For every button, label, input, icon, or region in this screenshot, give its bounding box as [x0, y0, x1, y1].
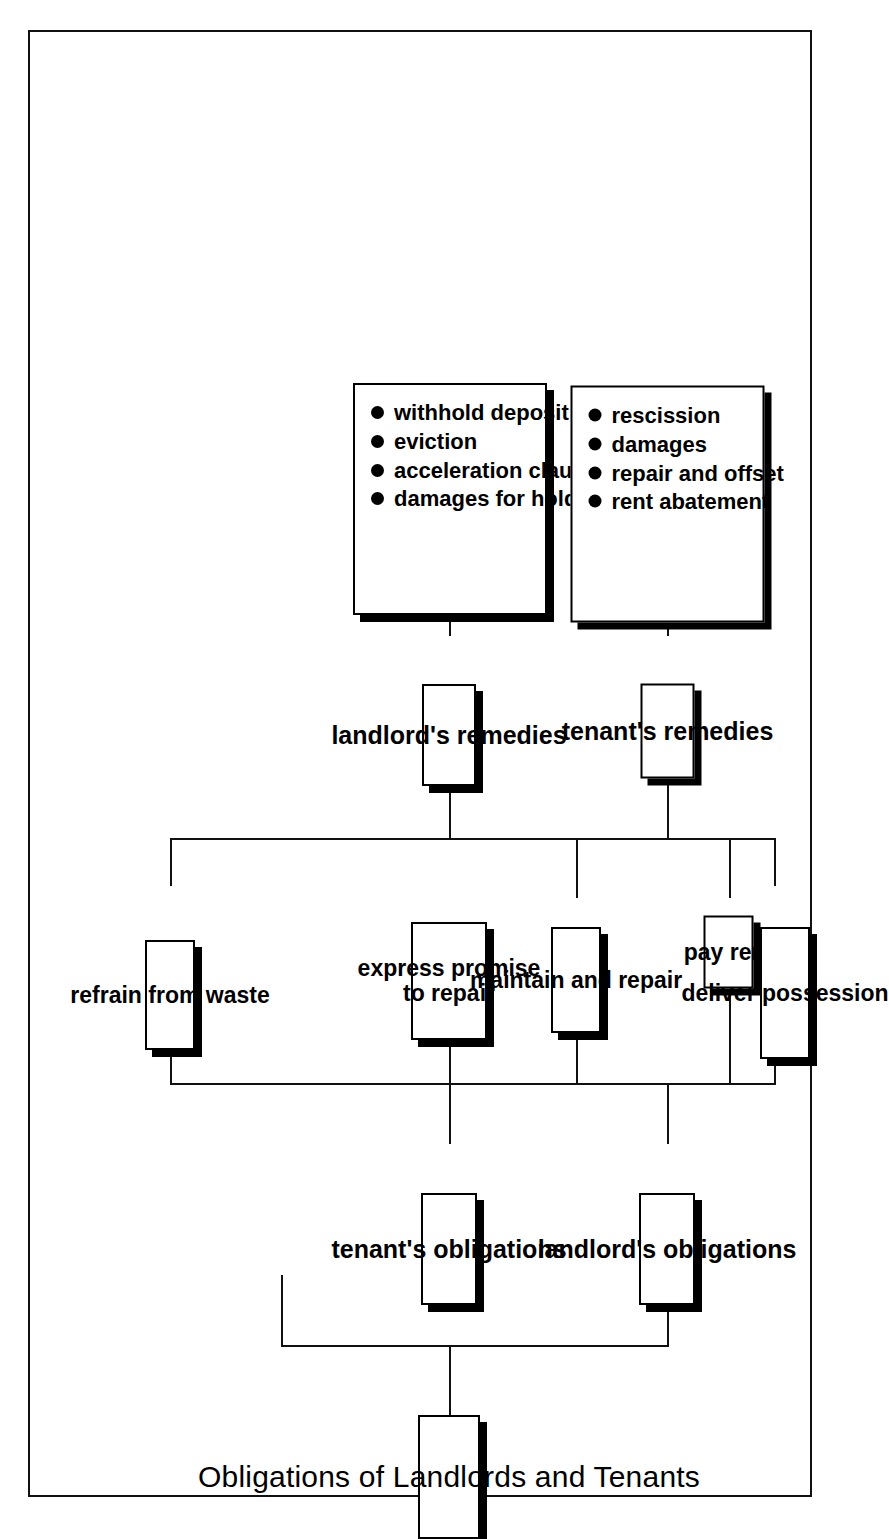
list-item: eviction [371, 430, 527, 454]
node-deliver-possession-label: deliver possession [681, 981, 888, 1006]
node-root-title[interactable]: Obligations of Landlords and Tenants [418, 1415, 480, 1539]
list-item: damages [589, 432, 745, 456]
node-pay-rent[interactable]: pay rent [704, 916, 754, 989]
bullet-dot-icon [589, 437, 602, 450]
node-refrain-from-waste[interactable]: refrain from waste [145, 940, 195, 1050]
node-tenant-obligations-label: tenant's obligations [331, 1236, 566, 1263]
tree-diagram: Obligations of Landlords and Tenants ten… [60, 66, 840, 1526]
connector-root-spine [281, 1345, 669, 1347]
bullet-dot-icon [371, 406, 384, 419]
node-landlord-obligations-label: landlord's obligations [538, 1236, 797, 1263]
list-item-label: damages [612, 432, 707, 456]
connector-tenant-payrent-out [729, 838, 731, 898]
node-tenants-remedies[interactable]: tenant's remedies [641, 684, 695, 779]
list-item: rescission [589, 404, 745, 428]
list-item: acceleration clause [371, 459, 527, 483]
node-tenants-remedies-label: tenant's remedies [562, 718, 774, 745]
connector-landlord-possession-out [774, 838, 776, 886]
list-item-label: rent abatement [612, 490, 770, 514]
connector-tenant-obligations-stem [449, 1084, 451, 1144]
list-item-label: rescission [612, 404, 721, 428]
node-deliver-possession[interactable]: deliver possession [760, 927, 810, 1059]
node-root-title-label: Obligations of Landlords and Tenants [198, 1461, 700, 1493]
node-maintain-and-repair[interactable]: maintain and repair [551, 927, 601, 1033]
node-maintain-and-repair-label: maintain and repair [470, 968, 682, 993]
bullet-dot-icon [371, 464, 384, 477]
connector-landlord-duties-merge [576, 838, 776, 840]
list-item: rent abatement [589, 490, 745, 514]
list-item: damages for holdover [371, 487, 527, 511]
list-item-label: acceleration clause [394, 459, 597, 483]
bullet-dot-icon [589, 495, 602, 508]
bullet-dot-icon [371, 492, 384, 505]
rotated-diagram-canvas: Obligations of Landlords and Tenants ten… [60, 66, 840, 1526]
page-border-frame: Obligations of Landlords and Tenants ten… [28, 30, 812, 1497]
list-item: withhold deposit [371, 401, 527, 425]
connector-tenant-waste-out [170, 838, 172, 886]
connector-landlord-maintain-out [576, 838, 578, 898]
bullet-dot-icon [589, 409, 602, 422]
bullet-dot-icon [589, 466, 602, 479]
list-item-label: repair and offset [612, 461, 784, 485]
list-item-label: withhold deposit [394, 401, 569, 425]
node-tenant-obligations[interactable]: tenant's obligations [421, 1193, 477, 1305]
list-item: repair and offset [589, 461, 745, 485]
connector-landlord-to-tenant-remedies [667, 772, 669, 840]
node-tenants-remedies-list[interactable]: rescission damages repair and offset ren… [571, 386, 765, 623]
node-landlords-remedies-list[interactable]: withhold deposit eviction acceleration c… [353, 383, 547, 615]
node-landlord-obligations[interactable]: landlord's obligations [639, 1193, 695, 1305]
node-refrain-from-waste-label: refrain from waste [70, 983, 269, 1008]
connector-landlord-obligations-stem [667, 1084, 669, 1144]
node-landlords-remedies-label: landlord's remedies [331, 722, 566, 749]
bullet-dot-icon [371, 435, 384, 448]
connector-to-tenant-obligations [281, 1275, 283, 1347]
node-landlords-remedies[interactable]: landlord's remedies [422, 684, 476, 786]
list-item-label: eviction [394, 430, 477, 454]
connector-landlord-duty-spine [576, 1083, 776, 1085]
